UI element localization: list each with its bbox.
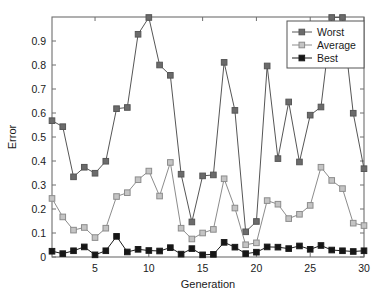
data-point-marker bbox=[307, 247, 313, 253]
data-point-marker bbox=[71, 248, 77, 254]
data-point-marker bbox=[243, 229, 249, 235]
data-point-marker bbox=[232, 244, 238, 250]
data-point-marker bbox=[92, 235, 98, 241]
data-point-marker bbox=[350, 249, 356, 255]
data-point-marker bbox=[361, 166, 367, 172]
data-point-marker bbox=[178, 251, 184, 257]
data-point-marker bbox=[135, 247, 141, 253]
data-point-marker bbox=[146, 168, 152, 174]
data-point-marker bbox=[361, 248, 367, 254]
error-vs-generation-line-chart: 00.10.20.30.40.50.60.70.80.9 51015202530… bbox=[0, 0, 378, 295]
data-point-marker bbox=[307, 112, 313, 118]
y-tick-label: 0.5 bbox=[31, 131, 46, 143]
data-point-marker bbox=[103, 158, 109, 164]
data-point-marker bbox=[264, 63, 270, 69]
data-point-marker bbox=[297, 243, 303, 249]
legend-marker-worst bbox=[299, 29, 305, 35]
data-point-marker bbox=[329, 178, 335, 184]
data-point-marker bbox=[189, 219, 195, 225]
data-point-marker bbox=[103, 225, 109, 231]
legend-marker-average bbox=[299, 42, 305, 48]
data-point-marker bbox=[307, 203, 313, 209]
data-point-marker bbox=[275, 156, 281, 162]
data-point-marker bbox=[318, 243, 324, 249]
y-tick-label: 0.6 bbox=[31, 107, 46, 119]
legend-label-worst[interactable]: Worst bbox=[317, 26, 344, 38]
data-point-marker bbox=[254, 219, 260, 225]
data-point-marker bbox=[286, 216, 292, 222]
data-point-marker bbox=[297, 211, 303, 217]
data-point-marker bbox=[92, 170, 98, 176]
data-point-marker bbox=[103, 248, 109, 254]
data-point-marker bbox=[81, 244, 87, 250]
data-point-marker bbox=[211, 227, 217, 233]
data-point-marker bbox=[221, 240, 227, 246]
data-point-marker bbox=[81, 164, 87, 170]
y-tick-label: 0.8 bbox=[31, 59, 46, 71]
data-point-marker bbox=[350, 110, 356, 116]
y-axis-title: Error bbox=[6, 124, 18, 149]
legend-marker-best bbox=[299, 55, 305, 61]
data-point-marker bbox=[125, 105, 131, 111]
data-point-marker bbox=[114, 194, 120, 200]
data-point-marker bbox=[157, 193, 163, 199]
data-point-marker bbox=[60, 124, 66, 130]
y-tick-label: 0.2 bbox=[31, 203, 46, 215]
data-point-marker bbox=[200, 173, 206, 179]
data-point-marker bbox=[329, 247, 335, 253]
x-tick-label: 15 bbox=[197, 262, 209, 274]
y-tick-label: 0.1 bbox=[31, 227, 46, 239]
legend-label-average[interactable]: Average bbox=[317, 39, 356, 51]
data-point-marker bbox=[114, 106, 120, 112]
data-point-marker bbox=[81, 225, 87, 231]
y-tick-label: 0 bbox=[40, 251, 46, 263]
data-point-marker bbox=[340, 186, 346, 192]
data-point-marker bbox=[318, 104, 324, 110]
data-point-marker bbox=[211, 172, 217, 178]
data-point-marker bbox=[361, 223, 367, 229]
data-point-marker bbox=[168, 160, 174, 166]
data-point-marker bbox=[254, 240, 260, 246]
data-point-marker bbox=[189, 236, 195, 242]
x-axis-title: Generation bbox=[181, 278, 235, 290]
data-point-marker bbox=[125, 190, 131, 196]
data-point-marker bbox=[232, 205, 238, 211]
data-point-marker bbox=[243, 251, 249, 257]
data-point-marker bbox=[71, 174, 77, 180]
data-point-marker bbox=[318, 164, 324, 170]
data-point-marker bbox=[168, 245, 174, 251]
y-tick-label: 0.4 bbox=[31, 155, 46, 167]
data-point-marker bbox=[125, 249, 131, 255]
data-point-marker bbox=[232, 108, 238, 114]
data-point-marker bbox=[92, 252, 98, 258]
legend-label-best[interactable]: Best bbox=[317, 52, 338, 64]
data-point-marker bbox=[49, 118, 55, 124]
data-point-marker bbox=[340, 15, 346, 21]
data-point-marker bbox=[157, 62, 163, 68]
data-point-marker bbox=[221, 176, 227, 182]
x-tick-label: 20 bbox=[251, 262, 263, 274]
data-point-marker bbox=[60, 251, 66, 257]
data-point-marker bbox=[275, 244, 281, 250]
data-point-marker bbox=[329, 15, 335, 21]
data-point-marker bbox=[189, 246, 195, 252]
data-point-marker bbox=[264, 244, 270, 250]
x-tick-label: 5 bbox=[92, 262, 98, 274]
data-point-marker bbox=[168, 73, 174, 79]
data-point-marker bbox=[254, 249, 260, 255]
data-point-marker bbox=[264, 198, 270, 204]
data-point-marker bbox=[146, 15, 152, 21]
chart-legend[interactable]: WorstAverageBest bbox=[287, 21, 364, 68]
x-tick-label: 30 bbox=[358, 262, 370, 274]
data-point-marker bbox=[135, 177, 141, 183]
data-point-marker bbox=[157, 248, 163, 254]
data-point-marker bbox=[275, 201, 281, 207]
data-point-marker bbox=[286, 99, 292, 105]
data-point-marker bbox=[114, 234, 120, 240]
data-point-marker bbox=[211, 252, 217, 258]
data-point-marker bbox=[49, 248, 55, 254]
x-tick-label: 10 bbox=[143, 262, 155, 274]
data-point-marker bbox=[60, 214, 66, 220]
data-point-marker bbox=[178, 225, 184, 231]
y-tick-label: 0.9 bbox=[31, 35, 46, 47]
